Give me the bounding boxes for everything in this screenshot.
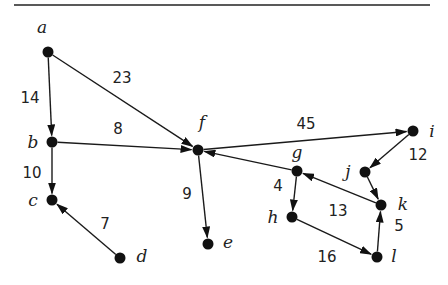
edge-j-k [367, 177, 378, 199]
graph-diagram: 1423810794541651312abcdefghijkl [0, 0, 448, 285]
node-label-a: a [37, 17, 47, 37]
edge-weight-label: 8 [113, 120, 123, 138]
node-b [47, 137, 58, 148]
node-k [376, 200, 387, 211]
node-label-e: e [223, 232, 233, 252]
node-label-i: i [429, 121, 434, 141]
node-label-k: k [398, 194, 408, 214]
edge-i-j [370, 135, 409, 168]
edge-weight-label: 12 [408, 146, 427, 164]
edge-b-f [57, 142, 191, 149]
node-e [203, 239, 214, 250]
node-label-f: f [197, 112, 208, 132]
node-c [47, 195, 58, 206]
node-i [408, 126, 419, 137]
node-label-c: c [28, 190, 38, 210]
edge-weight-label: 16 [317, 248, 336, 266]
edge-k-g [303, 173, 376, 202]
edge-a-b [48, 57, 51, 135]
edge-g-f [204, 151, 291, 170]
edge-f-i [203, 132, 406, 150]
edge-weight-label: 4 [273, 177, 283, 195]
node-layer [43, 47, 419, 264]
edge-weight-label: 45 [296, 115, 315, 133]
node-label-j: j [341, 161, 351, 181]
node-label-h: h [268, 207, 279, 227]
edge-f-e [199, 155, 208, 237]
node-label-d: d [137, 246, 148, 266]
edge-weight-label: 5 [394, 217, 404, 235]
edge-l-k [377, 211, 380, 251]
node-label-l: l [391, 246, 396, 266]
edge-weight-label: 23 [112, 69, 131, 87]
node-label-b: b [28, 132, 39, 152]
node-j [360, 167, 371, 178]
edge-weight-label: 13 [328, 202, 347, 220]
node-h [287, 212, 298, 223]
label-layer: 1423810794541651312abcdefghijkl [20, 17, 434, 266]
node-a [43, 47, 54, 58]
node-d [115, 253, 126, 264]
edge-weight-label: 9 [182, 185, 192, 203]
node-f [193, 145, 204, 156]
edge-weight-label: 7 [100, 215, 110, 233]
node-l [372, 252, 383, 263]
node-g [292, 166, 303, 177]
edge-g-h [293, 176, 297, 210]
node-label-g: g [292, 142, 303, 162]
edge-weight-label: 10 [22, 164, 41, 182]
edge-weight-label: 14 [20, 89, 39, 107]
